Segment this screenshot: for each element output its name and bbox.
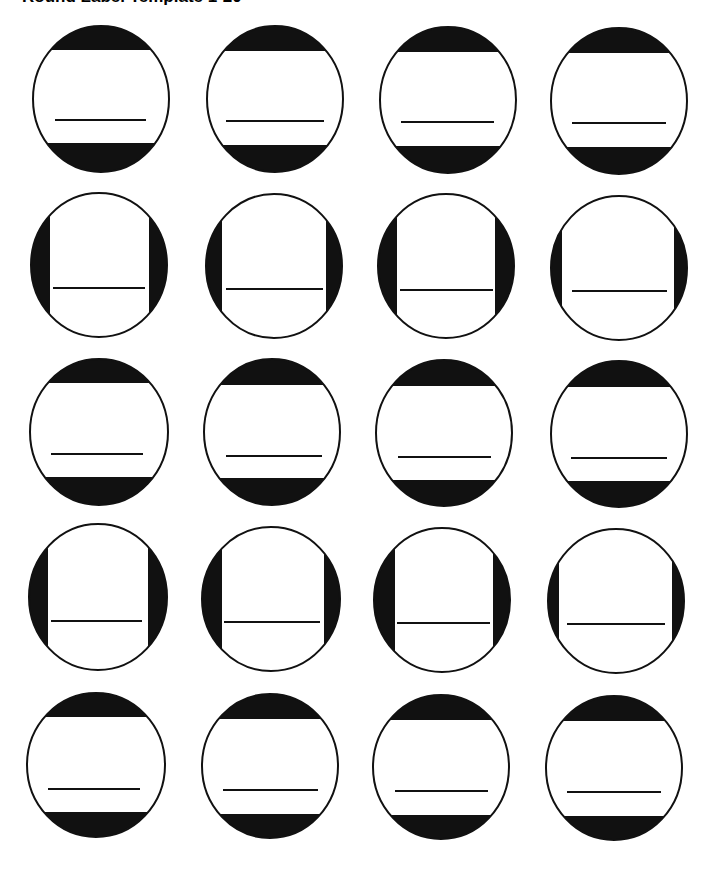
right-band [148, 522, 169, 672]
round-label-20 [544, 694, 684, 842]
left-band [29, 191, 50, 339]
round-label-6 [204, 192, 344, 340]
round-label-4 [549, 26, 689, 176]
round-label-18 [200, 692, 340, 840]
label-grid [0, 0, 712, 872]
round-label-16 [546, 527, 686, 675]
top-band [28, 357, 170, 383]
round-label-1 [31, 24, 171, 174]
left-band [376, 192, 397, 340]
top-band [31, 24, 171, 50]
label-sheet [0, 0, 712, 872]
round-label-11 [374, 358, 514, 508]
round-label-3 [378, 25, 518, 175]
top-band [25, 691, 167, 717]
left-band [27, 522, 48, 672]
bottom-band [544, 816, 684, 842]
round-label-15 [372, 526, 512, 674]
round-label-17 [25, 691, 167, 839]
round-label-10 [202, 357, 342, 507]
bottom-band [371, 815, 511, 841]
left-band [372, 526, 395, 674]
bottom-band [200, 814, 340, 840]
round-label-2 [205, 24, 345, 174]
round-label-12 [549, 359, 689, 509]
round-label-14 [200, 525, 342, 673]
round-label-8 [549, 194, 689, 342]
right-band [495, 192, 516, 340]
round-label-19 [371, 693, 511, 841]
round-label-7 [376, 192, 516, 340]
round-label-13 [27, 522, 169, 672]
round-label-9 [28, 357, 170, 507]
left-band [200, 525, 222, 673]
round-label-5 [29, 191, 169, 339]
bottom-band [31, 143, 171, 174]
